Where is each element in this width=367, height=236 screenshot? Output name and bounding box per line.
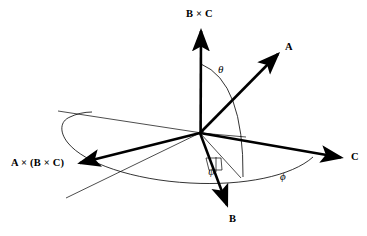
label-b: B [229,214,236,225]
vectors [80,31,341,205]
label-b-cross-c: B × C [186,9,213,20]
construction-lines [58,111,246,198]
label-a-cross-b-cross-c: A × (B × C) [11,158,64,169]
plane-edge-lower-left-line [66,131,204,198]
angle-arcs [62,64,313,184]
vector-canvas [0,0,367,236]
vector-c [200,133,341,158]
vector-a-cross-b-cross-c [80,133,200,163]
vector-a [200,54,278,133]
label-c: C [351,152,359,163]
theta-arc [201,64,243,177]
phi-arc [62,117,313,184]
label-theta: θ [218,64,223,75]
plane-edge-upper-left-line [58,111,215,135]
vector-diagram: B × C A C B A × (B × C) θ ϕ ψ [0,0,367,236]
label-phi: ϕ [280,171,286,182]
label-a: A [285,42,293,53]
label-psi: ψ [208,166,215,177]
